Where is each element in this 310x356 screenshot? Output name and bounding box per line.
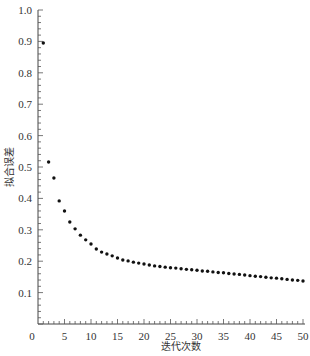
data-point <box>105 252 108 255</box>
x-tick-label: 20 <box>139 330 151 342</box>
data-point <box>47 160 50 163</box>
data-point <box>222 271 225 274</box>
data-point <box>217 271 220 274</box>
data-point <box>126 259 129 262</box>
data-point <box>111 254 114 257</box>
data-point <box>285 278 288 281</box>
data-point <box>264 276 267 279</box>
data-point <box>121 258 124 261</box>
data-point <box>142 262 145 265</box>
data-point <box>270 276 273 279</box>
data-point <box>232 272 235 275</box>
data-point <box>259 275 262 278</box>
data-point <box>190 268 193 271</box>
y-axis-label: 拟合误差 <box>3 147 15 187</box>
data-points <box>42 41 305 282</box>
data-point <box>185 268 188 271</box>
data-point <box>100 250 103 253</box>
data-point <box>280 277 283 280</box>
y-tick-label: 0.7 <box>18 98 32 110</box>
x-axis-label: 迭代次数 <box>161 340 201 352</box>
data-point <box>174 266 177 269</box>
data-point <box>248 274 251 277</box>
data-point <box>95 247 98 250</box>
data-point <box>254 275 257 278</box>
y-tick-label: 0.2 <box>18 255 32 267</box>
data-point <box>148 263 151 266</box>
data-point <box>158 265 161 268</box>
data-point <box>179 267 182 270</box>
data-point <box>201 269 204 272</box>
data-point <box>153 264 156 267</box>
data-point <box>58 199 61 202</box>
data-point <box>243 273 246 276</box>
y-tick-label: 0.9 <box>18 35 32 47</box>
x-tick-label: 50 <box>298 330 310 342</box>
x-tick-label: 45 <box>271 330 283 342</box>
x-tick-label: 15 <box>112 330 124 342</box>
data-point <box>206 270 209 273</box>
tick-labels: 0.10.20.30.40.50.60.70.80.91.00510152025… <box>18 4 309 342</box>
data-point <box>63 209 66 212</box>
x-tick-label: 40 <box>245 330 257 342</box>
y-tick-label: 0.4 <box>18 192 32 204</box>
x-tick-label: 0 <box>29 330 35 342</box>
x-tick-label: 10 <box>86 330 98 342</box>
data-point <box>296 279 299 282</box>
y-tick-label: 1.0 <box>18 4 32 16</box>
data-point <box>238 273 241 276</box>
x-tick-label: 5 <box>62 330 68 342</box>
scatter-chart: 0.10.20.30.40.50.60.70.80.91.00510152025… <box>0 0 309 356</box>
data-point <box>68 220 71 223</box>
y-tick-label: 0.6 <box>18 130 32 142</box>
data-point <box>116 256 119 259</box>
ticks <box>38 10 303 324</box>
data-point <box>164 265 167 268</box>
y-tick-label: 0.8 <box>18 67 32 79</box>
data-point <box>89 242 92 245</box>
data-point <box>301 279 304 282</box>
data-point <box>275 276 278 279</box>
data-point <box>211 270 214 273</box>
data-point <box>132 260 135 263</box>
data-point <box>169 266 172 269</box>
y-tick-label: 0.1 <box>18 287 32 299</box>
data-point <box>195 269 198 272</box>
data-point <box>73 227 76 230</box>
y-tick-label: 0.5 <box>18 161 32 173</box>
data-point <box>52 176 55 179</box>
x-tick-label: 35 <box>218 330 230 342</box>
data-point <box>79 233 82 236</box>
data-point <box>137 261 140 264</box>
data-point <box>291 278 294 281</box>
data-point <box>42 41 45 44</box>
data-point <box>84 238 87 241</box>
y-tick-label: 0.3 <box>18 224 32 236</box>
data-point <box>227 272 230 275</box>
